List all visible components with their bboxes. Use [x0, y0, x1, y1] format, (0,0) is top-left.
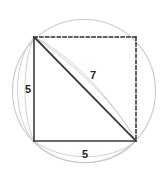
geometry-figure-container: 5 5 7	[0, 0, 162, 179]
label-bottom-side: 5	[82, 148, 88, 160]
label-group: 5 5 7	[25, 69, 96, 160]
label-left-side: 5	[25, 83, 31, 95]
square-edge-group	[34, 37, 136, 141]
geometry-diagram: 5 5 7	[0, 0, 162, 179]
diagonal-hypotenuse	[34, 37, 136, 141]
label-diagonal: 7	[90, 69, 96, 81]
